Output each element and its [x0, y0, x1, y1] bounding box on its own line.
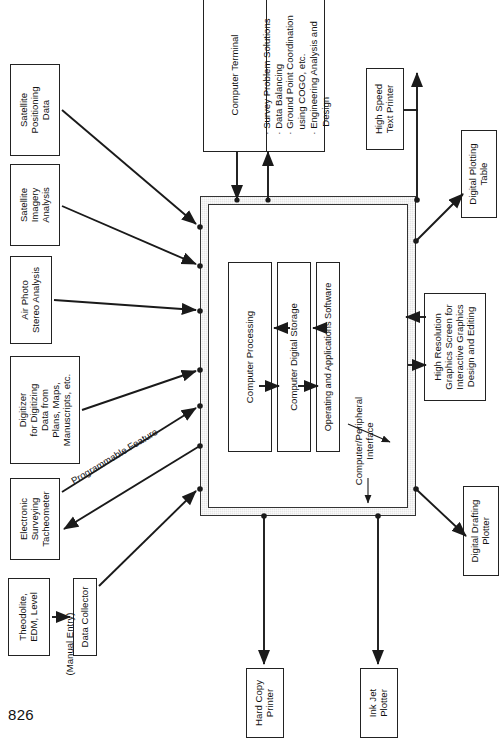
computer-terminal-title: Computer Terminal [229, 35, 240, 116]
box-high-speed-text-printer: High Speed Text Printer [366, 68, 404, 150]
manual-entry-text: (Manual Entry) [64, 613, 75, 676]
box-line: Digital Drafting [469, 500, 480, 563]
box-line: Ink Jet [367, 689, 378, 717]
computer-terminal-bullet: Engineering Analysis and [307, 21, 318, 129]
component-label: Computer Processing [244, 311, 255, 403]
wire-satellite-imagery-to-system [62, 206, 196, 264]
box-line: Text Printer [384, 85, 395, 134]
box-line: Air Photo [19, 280, 30, 319]
box-line: Digital Plotting [467, 143, 478, 204]
bullet-indent [319, 127, 330, 135]
box-digitizer: Digitizer for Digitizing Data from Plans… [10, 356, 80, 464]
box-line: Analysis [39, 187, 50, 223]
computer-terminal-bullet: Design [319, 97, 330, 127]
box-line: Design and Editing [465, 307, 476, 388]
box-line: Plotter [378, 689, 389, 717]
component-computer-digital-storage: Computer Digital Storage [277, 262, 311, 452]
box-line: Manuscripts, etc. [60, 374, 71, 447]
wire-digitizer-to-system [82, 371, 196, 410]
bullet-mark: · [260, 129, 271, 135]
box-line: High Resolution [432, 313, 443, 381]
box-satellite-imagery-analysis: Satellite Imagery Analysis [10, 164, 60, 246]
programmable-feature-text: Programmable Feature [69, 426, 159, 486]
box-line: Positioning [29, 87, 40, 134]
component-label: Computer Digital Storage [288, 303, 299, 411]
bullet-mark: · [284, 129, 295, 135]
wire-system-to-digital-drafting-plotter [417, 490, 466, 536]
computer-terminal-bullet: Data Balancing [272, 64, 283, 129]
component-computer-processing: Computer Processing [228, 262, 272, 452]
interface-label-line2: Interface [364, 422, 375, 459]
box-line: Satellite [18, 93, 29, 127]
box-ink-jet-plotter: Ink Jet Plotter [360, 668, 398, 738]
box-line: Graphics Screen for [443, 304, 454, 389]
box-line: for Digitizing [28, 384, 39, 437]
box-digital-drafting-plotter: Digital Drafting Plotter [463, 486, 499, 576]
interface-label-line1: Computer/Peripheral [353, 397, 364, 486]
box-line: Printer [264, 689, 275, 717]
box-line: Data [39, 100, 50, 120]
box-line: High Speed [373, 84, 384, 134]
box-line: Electronic [18, 498, 29, 540]
label-programmable-feature: Programmable Feature [72, 452, 202, 512]
box-electronic-surveying-tacheometer: Electronic Surveying Tacheometer [10, 478, 60, 560]
wire-system-to-digital-plotting-table [417, 194, 463, 240]
computer-terminal-bullet: using COGO, etc. [296, 54, 307, 130]
bullet-indent [296, 129, 307, 134]
box-line: Surveying [29, 498, 40, 541]
box-digital-plotting-table: Digital Plotting Table [461, 130, 497, 218]
label-manual-entry: (Manual Entry) [40, 614, 100, 674]
box-line: Hard Copy [253, 680, 264, 726]
bullet-mark: · [272, 129, 283, 135]
computer-peripheral-interface-label: Computer/Peripheral Interface [322, 398, 408, 484]
box-line: Theodolite, [17, 593, 28, 640]
box-satellite-positioning-data: Satellite Positioning Data [10, 64, 60, 156]
box-line: Satellite [18, 188, 29, 222]
box-computer-terminal: Computer Terminal [203, 0, 267, 152]
box-line: EDM, Level [28, 592, 39, 642]
wire-satellite-positioning-to-system [62, 110, 196, 224]
computer-terminal-bullet: Ground Point Coordination [284, 15, 295, 129]
wire-air-photo-to-system [54, 300, 196, 310]
box-line: Interactive Graphics [454, 304, 465, 389]
box-line: Plotter [480, 517, 491, 545]
bullet-mark: · [307, 129, 318, 135]
page-number: 826 [8, 706, 34, 723]
box-air-photo-stereo-analysis: Air Photo Stereo Analysis [10, 256, 52, 344]
box-line: Plans, Maps, [49, 382, 60, 437]
box-line: Table [478, 163, 489, 186]
box-hard-copy-printer: Hard Copy Printer [246, 668, 284, 738]
box-line: Digitizer [17, 393, 28, 428]
box-line: Data from [39, 389, 50, 431]
box-line: Tacheometer [39, 491, 50, 546]
computer-terminal-bullet: Survey Problem Solutions [260, 18, 271, 128]
box-line: Stereo Analysis [30, 267, 41, 333]
box-high-resolution-graphics-screen: High Resolution Graphics Screen for Inte… [424, 293, 486, 401]
diagram-canvas: Computer Processing Computer Digital Sto… [0, 0, 501, 747]
box-computer-terminal-bullets: · Survey Problem Solutions · Data Balanc… [267, 0, 325, 152]
box-line: Imagery [29, 188, 40, 223]
